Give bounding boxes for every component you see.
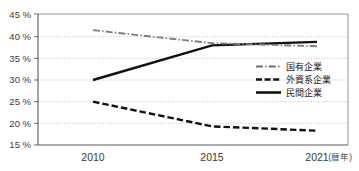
x-axis-unit-note: (暦年)	[328, 152, 352, 162]
y-tick-label-20: 20 %	[9, 118, 31, 129]
y-tick-marks	[34, 14, 38, 145]
legend-label-kokuyu: 国有企業	[286, 61, 322, 72]
x-tick-label-2021: 2021	[305, 151, 329, 163]
x-tick-label-2010: 2010	[81, 151, 105, 163]
x-tick-label-2015: 2015	[200, 151, 224, 163]
y-tick-label-25: 25 %	[9, 96, 31, 107]
y-tick-label-45: 45 %	[9, 9, 31, 20]
clipped-title-text	[160, 0, 350, 5]
y-tick-label-15: 15 %	[9, 139, 31, 150]
line-chart: 15 % 20 % 25 % 30 % 35 % 40 % 45 % 2010 …	[0, 0, 359, 171]
chart-canvas: 15 % 20 % 25 % 30 % 35 % 40 % 45 % 2010 …	[0, 0, 359, 171]
legend-label-minkan: 民間企業	[286, 87, 322, 98]
y-tick-label-30: 30 %	[9, 74, 31, 85]
y-tick-label-40: 40 %	[9, 31, 31, 42]
y-tick-label-35: 35 %	[9, 53, 31, 64]
legend-label-gaishikei: 外資系企業	[286, 74, 331, 85]
